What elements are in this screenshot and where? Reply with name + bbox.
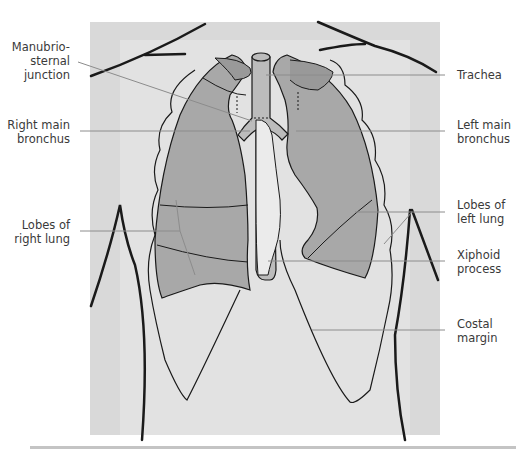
label-trachea: Trachea [457, 68, 502, 82]
label-right-main-bronchus: Right main bronchus [0, 118, 70, 146]
label-costal-margin: Costal margin [457, 317, 498, 345]
label-lobes-right-lung: Lobes of right lung [0, 218, 70, 246]
chest-anatomy-diagram [0, 0, 516, 452]
label-lobes-left-lung: Lobes of left lung [457, 198, 505, 226]
label-xiphoid-process: Xiphoid process [457, 248, 501, 276]
label-left-main-bronchus: Left main bronchus [457, 118, 511, 146]
label-manubriosternal-junction: Manubrio- sternal junction [0, 40, 70, 82]
clipped-caption [30, 444, 516, 452]
